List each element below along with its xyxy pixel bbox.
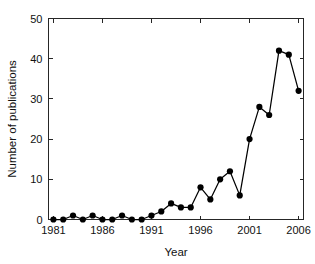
x-tick-label: 2006: [286, 224, 310, 236]
data-point: [60, 216, 66, 222]
x-axis-title: Year: [164, 246, 187, 258]
data-point: [148, 212, 154, 218]
y-tick-label: 40: [30, 53, 42, 65]
data-point: [109, 216, 115, 222]
x-tick-label: 1991: [139, 224, 163, 236]
data-point: [178, 204, 184, 210]
data-point: [158, 208, 164, 214]
data-point: [296, 88, 302, 94]
publications-series-markers: [50, 48, 301, 223]
data-point: [50, 216, 56, 222]
y-tick-label: 10: [30, 173, 42, 185]
y-tick-label: 30: [30, 93, 42, 105]
publications-line-chart-figure: 01020304050 198119861991199620012006 Yea…: [0, 0, 315, 264]
y-tick-label: 20: [30, 133, 42, 145]
data-point: [217, 176, 223, 182]
data-point: [256, 104, 262, 110]
data-point: [99, 216, 105, 222]
data-point: [197, 184, 203, 190]
data-point: [286, 52, 292, 58]
x-tick-label: 1986: [90, 224, 114, 236]
data-point: [139, 216, 145, 222]
data-point: [237, 192, 243, 198]
data-point: [80, 216, 86, 222]
data-point: [207, 196, 213, 202]
data-point: [70, 212, 76, 218]
data-point: [90, 212, 96, 218]
data-point: [188, 204, 194, 210]
data-point: [246, 136, 252, 142]
y-axis-title: Number of publications: [6, 60, 18, 178]
data-point: [119, 212, 125, 218]
x-tick-label: 1981: [41, 224, 65, 236]
data-point: [276, 48, 282, 54]
data-point: [266, 112, 272, 118]
x-axis-ticks: 198119861991199620012006: [41, 19, 311, 236]
data-point: [129, 216, 135, 222]
data-point: [227, 168, 233, 174]
publications-series-line: [53, 51, 298, 220]
x-tick-label: 2001: [237, 224, 261, 236]
axis-frame: [48, 18, 304, 220]
y-axis-ticks: 01020304050: [30, 13, 303, 226]
chart-canvas: 01020304050 198119861991199620012006 Yea…: [0, 0, 315, 264]
y-tick-label: 50: [30, 13, 42, 25]
x-tick-label: 1996: [188, 224, 212, 236]
data-point: [168, 200, 174, 206]
